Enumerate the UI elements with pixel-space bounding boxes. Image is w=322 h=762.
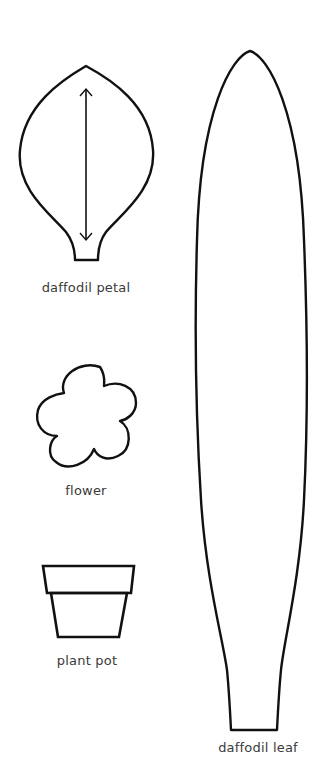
daffodil-leaf-shape <box>196 51 307 730</box>
leaf-label: daffodil leaf <box>218 740 298 755</box>
plant-pot-label: plant pot <box>57 653 117 668</box>
plant-pot-shape <box>43 566 134 637</box>
double-arrow-icon <box>80 89 92 240</box>
flower-label: flower <box>65 483 106 498</box>
templates-canvas <box>0 0 322 762</box>
flower-shape <box>37 365 136 466</box>
petal-label: daffodil petal <box>42 280 131 295</box>
